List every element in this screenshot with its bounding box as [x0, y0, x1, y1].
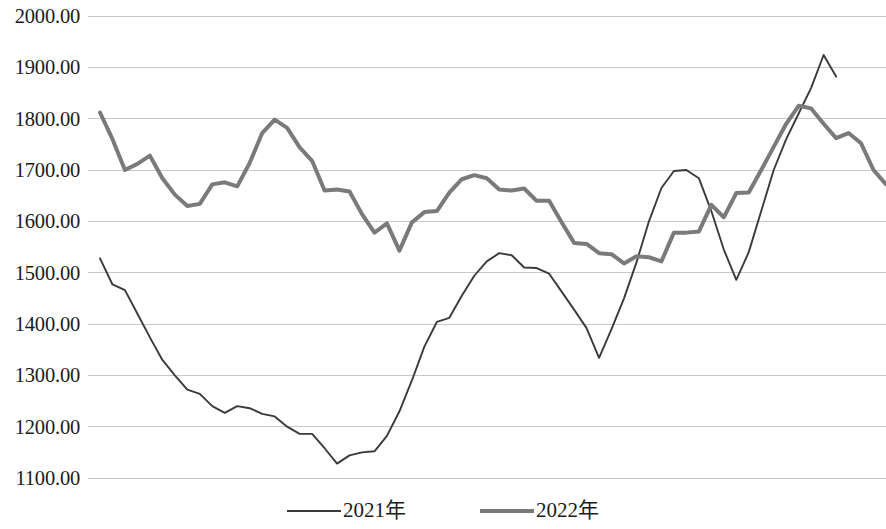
y-axis-tick-label: 1700.00	[15, 160, 80, 181]
y-axis-tick-label: 1300.00	[15, 365, 80, 386]
legend-label: 2021年	[343, 500, 406, 521]
y-axis-tick-label: 1200.00	[15, 416, 80, 437]
y-axis-tick-label: 2000.00	[15, 6, 80, 27]
y-axis-tick-label: 1400.00	[15, 314, 80, 335]
line-chart: 2000.001900.001800.001700.001600.001500.…	[0, 0, 886, 529]
y-axis-tick-label: 1500.00	[15, 262, 80, 283]
y-axis-tick-label: 1600.00	[15, 211, 80, 232]
chart-legend: 2021年2022年	[0, 492, 886, 529]
plot-area	[88, 0, 886, 490]
y-axis: 2000.001900.001800.001700.001600.001500.…	[0, 0, 88, 490]
series-lines	[88, 0, 886, 490]
y-axis-tick-label: 1100.00	[16, 468, 80, 489]
legend-item-2021[interactable]: 2021年	[287, 500, 406, 521]
y-axis-tick-label: 1800.00	[15, 108, 80, 129]
series-line-2021	[100, 55, 836, 464]
legend-item-2022[interactable]: 2022年	[480, 500, 599, 521]
legend-label: 2022年	[536, 500, 599, 521]
legend-line-swatch-icon	[480, 509, 534, 513]
y-axis-tick-label: 1900.00	[15, 57, 80, 78]
series-line-2022	[100, 106, 886, 264]
legend-line-swatch-icon	[287, 510, 341, 512]
